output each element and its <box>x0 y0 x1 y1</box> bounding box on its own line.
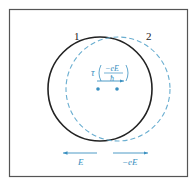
center-dot-2 <box>115 87 119 91</box>
fermi-sphere-diagram: 1 2 τ −eE ħ E −eE <box>0 0 195 186</box>
force-label-eE: −eE <box>122 157 138 167</box>
center-dot-1 <box>96 87 100 91</box>
diagram-frame <box>10 10 188 177</box>
field-label-E: E <box>77 157 84 167</box>
shift-denominator: ħ <box>110 74 114 83</box>
shift-numerator: −eE <box>105 64 119 73</box>
circle-1-label: 1 <box>74 30 80 42</box>
circle-2-label: 2 <box>146 30 152 42</box>
tau-symbol: τ <box>91 67 95 78</box>
